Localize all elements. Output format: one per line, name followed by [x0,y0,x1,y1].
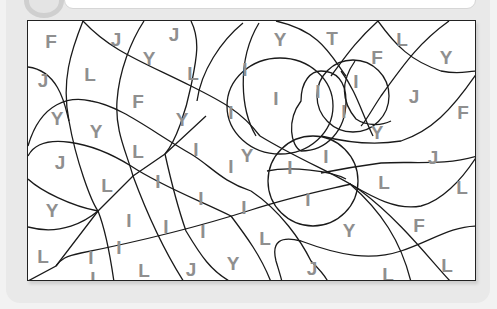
region-letter[interactable]: J [409,87,420,106]
region-letter[interactable]: L [396,30,408,49]
region-letter[interactable]: Y [440,48,453,67]
region-letter[interactable]: Y [343,221,356,240]
region-letter[interactable]: I [163,217,168,236]
color-by-letter-puzzle[interactable]: FJJYLLJIYTLFYIIIIJFYYFYIYILYIIIJJLIIIILL… [27,20,476,281]
region-letter[interactable]: I [242,60,247,79]
region-letter[interactable]: L [259,229,271,248]
region-letter[interactable]: I [228,157,233,176]
region-letter[interactable]: L [84,65,96,84]
region-letter[interactable]: Y [274,30,287,49]
region-letter[interactable]: L [132,142,144,161]
region-letter[interactable]: F [132,92,144,111]
region-letter[interactable]: F [371,48,383,67]
region-letter[interactable]: L [37,247,49,266]
region-letter[interactable]: I [287,158,292,177]
region-letter[interactable]: I [273,89,278,108]
region-letter[interactable]: J [111,30,122,49]
region-letter[interactable]: I [323,147,328,166]
region-letter[interactable]: T [326,29,338,48]
region-letter[interactable]: Y [51,109,64,128]
instruction-bar [64,0,476,9]
region-letter[interactable]: Y [46,201,59,220]
region-letter[interactable]: Y [143,49,156,68]
region-letter[interactable]: I [200,222,205,241]
region-letter[interactable]: L [441,256,453,275]
region-letter[interactable]: L [382,265,394,282]
region-letter[interactable]: J [169,25,180,44]
region-letter[interactable]: I [353,72,358,91]
region-letter[interactable]: L [378,173,390,192]
region-letter[interactable]: F [45,32,57,51]
region-letter[interactable]: J [38,71,49,90]
region-letter[interactable]: I [315,82,320,101]
region-letter[interactable]: L [101,176,113,195]
region-letter[interactable]: I [126,211,131,230]
region-letter[interactable]: F [413,216,425,235]
region-letter[interactable]: Y [227,254,240,273]
region-letter[interactable]: I [88,248,93,267]
region-letter[interactable]: J [55,153,66,172]
region-letter[interactable]: J [186,260,197,279]
region-letter[interactable]: J [307,259,318,278]
region-letter[interactable]: L [90,269,102,282]
region-letter[interactable]: I [228,103,233,122]
region-letter[interactable]: J [428,148,439,167]
region-letter[interactable]: I [155,172,160,191]
region-letter[interactable]: I [116,238,121,257]
region-letter[interactable]: Y [176,110,189,129]
region-letter[interactable]: L [187,64,199,83]
region-letter[interactable]: I [241,198,246,217]
region-letter[interactable]: I [193,140,198,159]
region-letter[interactable]: I [305,190,310,209]
region-letter[interactable]: I [341,102,346,121]
region-letter[interactable]: Y [241,146,254,165]
region-letter[interactable]: Y [90,122,103,141]
region-letter[interactable]: L [138,261,150,280]
region-letter[interactable]: I [198,189,203,208]
region-letter[interactable]: L [456,178,468,197]
region-letter[interactable]: Y [371,123,384,142]
region-letter[interactable]: F [457,103,469,122]
